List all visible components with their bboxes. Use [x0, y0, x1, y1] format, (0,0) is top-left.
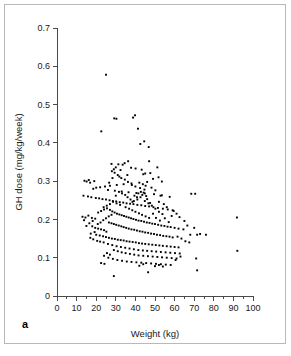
- scatter-point: [148, 160, 150, 162]
- scatter-point: [83, 195, 85, 197]
- scatter-point: [150, 233, 152, 235]
- scatter-point: [174, 246, 176, 248]
- scatter-point: [102, 219, 104, 221]
- scatter-point: [178, 246, 180, 248]
- y-tick-label: 0.6: [37, 61, 50, 71]
- scatter-point: [145, 185, 147, 187]
- scatter-point: [99, 186, 101, 188]
- scatter-point: [135, 192, 137, 194]
- scatter-point: [116, 184, 118, 186]
- scatter-point: [157, 224, 159, 226]
- scatter-point: [128, 217, 130, 219]
- scatter-point: [131, 261, 133, 263]
- scatter-point: [125, 252, 127, 254]
- y-tick-label: 0.7: [37, 23, 50, 33]
- scatter-point: [92, 188, 94, 190]
- scatter-point: [129, 248, 131, 250]
- scatter-point: [181, 238, 183, 240]
- x-axis: 0102030405060708090100: [54, 296, 260, 313]
- scatter-point: [138, 212, 140, 214]
- scatter-point: [97, 223, 99, 225]
- scatter-point: [136, 204, 138, 206]
- scatter-point: [179, 216, 181, 218]
- scatter-point: [127, 160, 129, 162]
- scatter-point: [147, 232, 149, 234]
- scatter-point: [142, 173, 144, 175]
- scatter-point: [175, 259, 177, 261]
- scatter-point: [121, 214, 123, 216]
- scatter-point: [151, 205, 153, 207]
- scatter-point: [136, 230, 138, 232]
- scatter-point: [119, 201, 121, 203]
- scatter-point: [116, 213, 118, 215]
- scatter-point: [105, 74, 107, 76]
- scatter-point: [153, 193, 155, 195]
- scatter-point: [104, 186, 106, 188]
- scatter-point: [86, 181, 88, 183]
- scatter-point: [170, 264, 172, 266]
- scatter-point: [154, 265, 156, 267]
- scatter-point: [189, 234, 191, 236]
- scatter-point: [108, 182, 110, 184]
- scatter-point: [236, 250, 238, 252]
- scatter-point: [149, 202, 151, 204]
- figure-panel: 00.10.20.30.40.50.60.7 01020304050607080…: [0, 0, 291, 356]
- scatter-point: [88, 179, 90, 181]
- scatter-point: [152, 213, 154, 215]
- x-tick-label: 0: [54, 303, 59, 313]
- scatter-point: [131, 209, 133, 211]
- scatter-point: [87, 196, 89, 198]
- scatter-point: [142, 255, 144, 257]
- x-tick-label: 80: [209, 303, 219, 313]
- scatter-point: [160, 225, 162, 227]
- scatter-point: [163, 203, 165, 205]
- scatter-point: [146, 181, 148, 183]
- scatter-point: [151, 223, 153, 225]
- scatter-point: [105, 217, 107, 219]
- scatter-point: [123, 215, 125, 217]
- scatter-point: [107, 243, 109, 245]
- scatter-point: [139, 143, 141, 145]
- scatter-point: [140, 191, 142, 193]
- scatter-point: [132, 117, 134, 119]
- scatter-point: [117, 174, 119, 176]
- scatter-point: [133, 195, 135, 197]
- scatter-point: [148, 217, 150, 219]
- scatter-point: [160, 263, 162, 265]
- scatter-point: [155, 251, 157, 253]
- scatter-point: [156, 234, 158, 236]
- scatter-point: [154, 223, 156, 225]
- data-points: [82, 74, 239, 277]
- scatter-point: [157, 207, 159, 209]
- scatter-point: [114, 238, 116, 240]
- scatter-point: [136, 199, 138, 201]
- scatter-point: [111, 210, 113, 212]
- scatter-point: [100, 222, 102, 224]
- scatter-point: [140, 196, 142, 198]
- scatter-point: [135, 241, 137, 243]
- scatter-plot: 00.10.20.30.40.50.60.7 01020304050607080…: [0, 0, 291, 356]
- scatter-point: [124, 179, 126, 181]
- scatter-point: [132, 241, 134, 243]
- scatter-point: [103, 229, 105, 231]
- scatter-point: [150, 263, 152, 265]
- scatter-point: [109, 199, 111, 201]
- scatter-point: [146, 222, 148, 224]
- scatter-point: [174, 252, 176, 254]
- scatter-point: [132, 218, 134, 220]
- scatter-point: [158, 245, 160, 247]
- scatter-point: [99, 241, 101, 243]
- scatter-point: [100, 262, 102, 264]
- scatter-point: [111, 170, 113, 172]
- scatter-point: [83, 219, 85, 221]
- scatter-point: [121, 191, 123, 193]
- scatter-point: [171, 257, 173, 259]
- scatter-point: [95, 187, 97, 189]
- scatter-point: [120, 246, 122, 248]
- scatter-point: [196, 269, 198, 271]
- scatter-point: [82, 216, 84, 218]
- scatter-point: [148, 146, 150, 148]
- scatter-point: [115, 224, 117, 226]
- scatter-point: [120, 169, 122, 171]
- scatter-point: [130, 199, 132, 201]
